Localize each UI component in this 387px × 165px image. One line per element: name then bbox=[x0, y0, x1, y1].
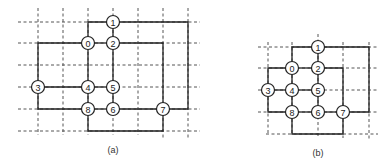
panel-b: 1 0 2 3 4 5 8 6 7 (b) bbox=[258, 34, 378, 158]
node-5: 5 bbox=[312, 84, 325, 97]
node-6: 6 bbox=[107, 103, 120, 116]
svg-text:8: 8 bbox=[85, 105, 90, 115]
svg-text:4: 4 bbox=[85, 83, 90, 93]
node-2: 2 bbox=[107, 37, 120, 50]
svg-text:3: 3 bbox=[265, 86, 270, 96]
svg-text:6: 6 bbox=[110, 105, 115, 115]
svg-text:1: 1 bbox=[110, 18, 115, 28]
node-7: 7 bbox=[337, 106, 350, 119]
node-8: 8 bbox=[82, 103, 95, 116]
svg-text:2: 2 bbox=[315, 64, 320, 74]
node-6: 6 bbox=[312, 106, 325, 119]
node-0: 0 bbox=[82, 37, 95, 50]
panel-a-caption: (a) bbox=[108, 145, 119, 155]
panel-b-caption: (b) bbox=[313, 148, 324, 158]
svg-text:5: 5 bbox=[110, 83, 115, 93]
svg-text:1: 1 bbox=[315, 43, 320, 53]
svg-text:0: 0 bbox=[289, 64, 294, 74]
topology-figure: 1 0 2 3 4 5 8 6 7 (a) bbox=[0, 0, 387, 165]
node-2: 2 bbox=[312, 62, 325, 75]
node-0: 0 bbox=[286, 62, 299, 75]
svg-text:0: 0 bbox=[85, 39, 90, 49]
node-8: 8 bbox=[286, 106, 299, 119]
node-4: 4 bbox=[82, 81, 95, 94]
svg-text:6: 6 bbox=[315, 108, 320, 118]
svg-text:8: 8 bbox=[289, 108, 294, 118]
node-3: 3 bbox=[32, 81, 45, 94]
svg-text:2: 2 bbox=[110, 39, 115, 49]
svg-text:7: 7 bbox=[160, 105, 165, 115]
node-7: 7 bbox=[157, 103, 170, 116]
node-3: 3 bbox=[262, 84, 275, 97]
svg-text:3: 3 bbox=[35, 83, 40, 93]
node-1: 1 bbox=[107, 16, 120, 29]
node-1: 1 bbox=[312, 41, 325, 54]
node-4: 4 bbox=[286, 84, 299, 97]
panel-b-nodes: 1 0 2 3 4 5 8 6 7 bbox=[262, 41, 350, 119]
svg-text:4: 4 bbox=[289, 86, 294, 96]
svg-text:5: 5 bbox=[315, 86, 320, 96]
panel-a: 1 0 2 3 4 5 8 6 7 (a) bbox=[18, 8, 200, 155]
svg-text:7: 7 bbox=[340, 108, 345, 118]
node-5: 5 bbox=[107, 81, 120, 94]
